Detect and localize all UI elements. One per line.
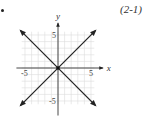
origin-point — [56, 66, 60, 70]
x-tick-label-5: 5 — [89, 69, 93, 78]
coordinate-plot: x y -5 5 5 -5 — [0, 0, 148, 118]
y-axis-label: y — [55, 11, 60, 21]
x-axis-label: x — [106, 63, 111, 73]
x-tick-label-neg5: -5 — [21, 69, 28, 78]
y-tick-label-neg5: -5 — [49, 97, 56, 106]
y-tick-label-5: 5 — [52, 31, 56, 40]
